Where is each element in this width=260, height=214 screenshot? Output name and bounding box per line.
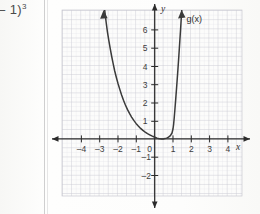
x-tick-label: –1	[132, 144, 142, 154]
x-tick-label: –3	[95, 144, 105, 154]
x-tick-label: –2	[113, 144, 123, 154]
y-tick-label: 5	[143, 43, 148, 53]
y-tick-label: 4	[143, 62, 148, 72]
curve-label-gx: g(x)	[187, 14, 203, 24]
y-tick-label: 1	[143, 116, 148, 126]
y-tick-label: –2	[142, 171, 152, 181]
x-tick-label: 2	[189, 144, 194, 154]
y-tick-label: –1	[142, 152, 152, 162]
coordinate-graph: –4 –3 –2 –1 0 1 2 3 4 6 5 4 3 2 1 –1 –2 …	[0, 0, 260, 214]
y-tick-label: 3	[143, 80, 148, 90]
x-axis-name: x	[235, 142, 241, 152]
x-tick-label: 1	[171, 144, 176, 154]
y-axis-name: y	[160, 4, 166, 14]
x-tick-label: 3	[207, 144, 212, 154]
textbook-page-fragment: – 1)3	[0, 0, 260, 214]
x-tick-label: –4	[77, 144, 87, 154]
y-tick-label: 2	[143, 98, 148, 108]
x-tick-label: 4	[226, 144, 231, 154]
y-tick-label: 6	[143, 25, 148, 35]
